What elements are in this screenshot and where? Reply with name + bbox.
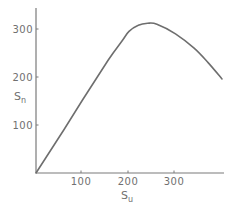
y-tick-label-100: 100 (12, 120, 33, 131)
x-axis-label: Su (121, 189, 133, 204)
y-axis-label: Sn (14, 90, 26, 105)
data-curve (36, 23, 222, 173)
chart: 100 200 300 100 200 300 Sn Su (0, 0, 235, 210)
line-chart: 100 200 300 100 200 300 Sn Su (0, 0, 235, 210)
y-ticks: 100 200 300 (12, 24, 38, 131)
y-tick-label-200: 200 (12, 72, 33, 83)
y-tick-label-300: 300 (12, 24, 33, 35)
x-tick-label-100: 100 (71, 176, 92, 187)
x-tick-label-200: 200 (118, 176, 139, 187)
x-tick-label-300: 300 (164, 176, 185, 187)
